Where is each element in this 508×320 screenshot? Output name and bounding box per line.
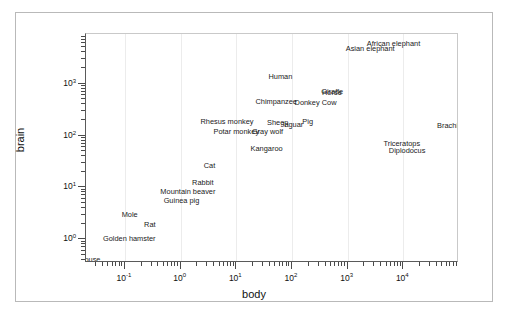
y-axis-minor-tick xyxy=(81,191,85,192)
x-axis-minor-tick xyxy=(219,262,220,266)
x-axis-minor-tick xyxy=(107,262,108,266)
x-axis-tick xyxy=(402,262,403,269)
x-axis-minor-tick xyxy=(456,262,457,266)
y-axis-minor-tick xyxy=(81,162,85,163)
y-axis-tick xyxy=(78,238,85,239)
data-point-label: Giraffe xyxy=(321,88,343,96)
data-point-label: Cow xyxy=(322,99,337,107)
y-axis-tick xyxy=(78,186,85,187)
y-axis-minor-tick xyxy=(81,146,85,147)
data-point-label: Brachiosau xyxy=(437,122,458,130)
x-axis-minor-tick xyxy=(386,262,387,266)
data-point-label: Rhesus monkey xyxy=(201,118,254,126)
y-axis-minor-tick xyxy=(81,223,85,224)
y-axis-minor-tick xyxy=(81,259,85,260)
x-axis-minor-tick xyxy=(400,262,401,266)
plot-panel: MouseGolden hamsterRatMoleGuinea pigMoun… xyxy=(85,33,458,262)
data-point-label: Mole xyxy=(122,211,138,219)
x-axis-minor-tick xyxy=(394,262,395,266)
x-axis-minor-tick xyxy=(206,262,207,266)
x-axis-minor-tick xyxy=(141,262,142,266)
y-axis-minor-tick xyxy=(81,241,85,242)
x-gridline-0 xyxy=(125,34,126,261)
y-axis-minor-tick xyxy=(81,243,85,244)
data-point-label: Golden hamster xyxy=(103,235,156,243)
x-axis-minor-tick xyxy=(233,262,234,266)
y-axis-minor-tick xyxy=(81,39,85,40)
x-axis-minor-tick xyxy=(119,262,120,266)
x-axis-minor-tick xyxy=(282,262,283,266)
x-axis-minor-tick xyxy=(171,262,172,266)
x-axis-minor-tick xyxy=(449,262,450,266)
y-axis-tick-label: 103 xyxy=(51,77,76,88)
y-axis-minor-tick xyxy=(81,250,85,251)
x-gridline-4 xyxy=(348,34,349,261)
x-axis-tick-label: 10-1 xyxy=(116,272,131,283)
y-axis-minor-tick xyxy=(81,254,85,255)
x-gridline-1 xyxy=(181,34,182,261)
x-axis-minor-tick xyxy=(325,262,326,266)
y-axis-minor-tick xyxy=(81,110,85,111)
x-axis-minor-tick xyxy=(95,262,96,266)
y-axis-minor-tick xyxy=(81,194,85,195)
y-axis-minor-tick xyxy=(81,91,85,92)
y-axis-minor-tick xyxy=(81,94,85,95)
y-axis-minor-tick xyxy=(81,137,85,138)
y-axis-minor-tick xyxy=(81,58,85,59)
x-axis-minor-tick xyxy=(115,262,116,266)
x-axis-minor-tick xyxy=(341,262,342,266)
y-axis-label: brain xyxy=(14,128,26,152)
x-axis-minor-tick xyxy=(112,262,113,266)
y-axis-tick xyxy=(78,83,85,84)
y-axis-minor-tick xyxy=(81,85,85,86)
x-axis-minor-tick xyxy=(288,262,289,266)
y-axis-minor-tick xyxy=(81,207,85,208)
y-axis-minor-tick xyxy=(81,51,85,52)
y-axis-minor-tick xyxy=(81,42,85,43)
y-axis-minor-tick xyxy=(81,88,85,89)
x-axis-minor-tick xyxy=(334,262,335,266)
y-axis-minor-tick xyxy=(81,202,85,203)
y-axis-minor-tick xyxy=(81,155,85,156)
x-axis-minor-tick xyxy=(446,262,447,266)
x-axis-label: body xyxy=(0,288,508,300)
x-gridline-3 xyxy=(292,34,293,261)
x-axis-minor-tick xyxy=(230,262,231,266)
x-axis-minor-tick xyxy=(453,262,454,266)
x-axis-minor-tick xyxy=(262,262,263,266)
x-axis-minor-tick xyxy=(286,262,287,266)
y-axis-minor-tick xyxy=(81,46,85,47)
x-axis-minor-tick xyxy=(151,262,152,266)
y-axis-minor-tick xyxy=(81,171,85,172)
x-axis-tick xyxy=(235,262,236,269)
y-axis-minor-tick xyxy=(81,150,85,151)
y-axis-minor-tick xyxy=(81,103,85,104)
x-axis-minor-tick xyxy=(227,262,228,266)
x-axis-minor-tick xyxy=(279,262,280,266)
x-axis-minor-tick xyxy=(167,262,168,266)
figure-root: MouseGolden hamsterRatMoleGuinea pigMoun… xyxy=(0,0,508,320)
x-axis-minor-tick xyxy=(308,262,309,266)
y-axis-minor-tick xyxy=(81,246,85,247)
y-axis-minor-tick xyxy=(81,67,85,68)
y-axis-minor-tick xyxy=(81,214,85,215)
data-point-label: Gray wolf xyxy=(252,128,283,136)
y-axis-minor-tick xyxy=(81,140,85,141)
data-point-label: Donkey xyxy=(295,99,320,107)
y-axis-minor-tick xyxy=(81,98,85,99)
x-axis-minor-tick xyxy=(330,262,331,266)
x-axis-minor-tick xyxy=(177,262,178,266)
y-axis-tick-label: 100 xyxy=(51,233,76,244)
x-gridline-2 xyxy=(236,34,237,261)
y-axis-minor-tick xyxy=(81,119,85,120)
x-axis-tick-label: 103 xyxy=(340,272,353,283)
y-axis-minor-tick xyxy=(81,143,85,144)
data-point-label: Pig xyxy=(302,118,313,126)
data-point-label: Rabbit xyxy=(192,179,213,187)
y-axis-tick-label: 101 xyxy=(51,181,76,192)
data-point-label: Human xyxy=(268,73,292,81)
x-axis-minor-tick xyxy=(213,262,214,266)
x-axis-minor-tick xyxy=(373,262,374,266)
data-point-label: Cat xyxy=(204,162,216,170)
y-axis-tick xyxy=(78,135,85,136)
